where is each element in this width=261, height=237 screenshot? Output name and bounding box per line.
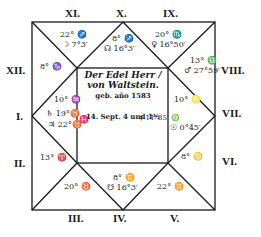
house-XI-label: XI. <box>65 8 80 19</box>
cusp-I-planet-jupiter: ♃ 22°♉ <box>48 121 82 129</box>
cusp-IV-planet: ☋ 16°3′ <box>107 184 138 192</box>
house-VI-label: VI. <box>222 156 237 167</box>
cusp-X-planet: ☊ 16°3′ <box>104 45 135 53</box>
birth-date-time: 14. Sept. 4 und 1½ <box>78 112 168 121</box>
house-VIII-label: VIII. <box>221 65 245 76</box>
cusp-XI-planet: ☽ 7°3′ <box>62 41 88 49</box>
cusp-I-planet-saturn: ♄ 19°♉ <box>46 110 80 118</box>
subject-title-line2: von Waltstein. <box>78 80 168 90</box>
house-V-label: V. <box>170 213 179 224</box>
house-IV-label: IV. <box>113 213 127 224</box>
diamond-right-top <box>168 68 215 116</box>
house-X-label: X. <box>116 8 127 19</box>
house-VII-label: VII. <box>222 108 241 119</box>
cusp-II-sign: 13° ♈ <box>40 154 67 162</box>
house-III-label: III. <box>68 213 84 224</box>
cusp-VII-sign: 10° ♌ <box>174 96 201 104</box>
chart-center-inscription: Der Edel Herr / von Waltstein. geb. año … <box>78 70 168 121</box>
house-II-label: II. <box>14 158 25 169</box>
house-IX-label: IX. <box>163 8 178 19</box>
house-I-label: I. <box>16 111 23 122</box>
cusp-VIII-planet: ♂ 27°59′ <box>184 67 220 75</box>
cusp-III-sign: 20° ♉ <box>64 183 91 191</box>
subject-title-line1: Der Edel Herr / <box>78 70 168 80</box>
cusp-X-sign: 8° ♐ <box>112 35 134 43</box>
cusp-IX-planet: ♀ 16°50′ <box>151 41 186 49</box>
birth-year: geb. año 1583 <box>78 91 168 100</box>
cusp-IV-sign: 8° ♊ <box>113 174 135 182</box>
cusp-VI-sign: 8° ♋ <box>181 153 203 161</box>
cusp-VIII-sign: 13° ♎ <box>190 57 217 65</box>
cusp-V-sign: 22° ♊ <box>157 183 184 191</box>
cusp-XII-sign: 8° ♑ <box>40 63 62 71</box>
cusp-IX-sign: 20° ♏ <box>155 31 182 39</box>
cusp-VII-planet-sun: ☉ 0°45′ <box>170 124 201 132</box>
house-XII-label: XII. <box>6 65 25 76</box>
cusp-I-sign: 10° ♒ <box>54 96 81 104</box>
cusp-XI-sign: 22° ♐ <box>60 31 87 39</box>
